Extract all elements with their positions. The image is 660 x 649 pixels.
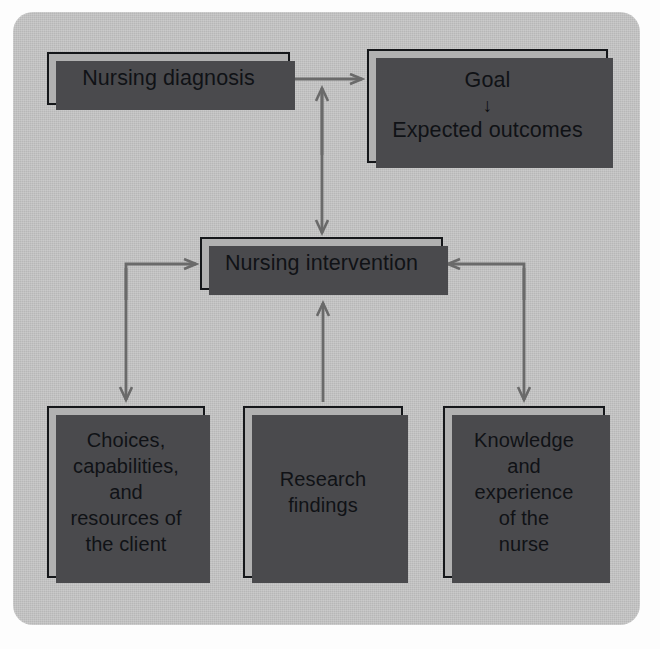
node-nursing-diagnosis-label: Nursing diagnosis — [82, 65, 255, 93]
node-nursing-diagnosis[interactable]: Nursing diagnosis — [47, 52, 290, 105]
node-expected-outcomes-label: Expected outcomes — [392, 117, 583, 145]
node-research-findings[interactable]: Research findings — [243, 406, 403, 578]
node-goal-expected-outcomes[interactable]: Goal ↓ Expected outcomes — [367, 49, 608, 163]
node-nursing-intervention[interactable]: Nursing intervention — [200, 237, 443, 290]
node-nursing-intervention-label: Nursing intervention — [225, 250, 418, 278]
node-choices-capabilities-resources[interactable]: Choices, capabilities, and resources of … — [47, 406, 205, 578]
node-knowledge-experience-nurse-label: Knowledge and experience of the nurse — [474, 427, 574, 557]
node-research-findings-label: Research findings — [280, 466, 366, 518]
node-knowledge-experience-nurse[interactable]: Knowledge and experience of the nurse — [443, 406, 605, 578]
down-arrow-icon: ↓ — [483, 97, 493, 114]
node-choices-capabilities-resources-label: Choices, capabilities, and resources of … — [70, 427, 181, 557]
node-goal-label: Goal — [465, 67, 511, 95]
diagram-canvas: Nursing diagnosis Goal ↓ Expected outcom… — [0, 0, 660, 649]
